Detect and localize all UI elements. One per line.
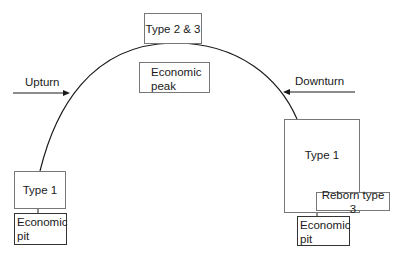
right-pit-line2: pit [300, 232, 349, 246]
reborn-type3-box: Reborn type 3 [316, 192, 390, 211]
left-economic-pit-box: Economic pit [14, 213, 67, 245]
upturn-label: Upturn [25, 76, 60, 88]
economic-peak-line2: peak [151, 79, 209, 93]
downturn-arrowhead [283, 89, 290, 95]
right-pit-line1: Economic [300, 218, 349, 232]
economic-peak-line1: Economic [151, 65, 209, 79]
downturn-label: Downturn [295, 75, 344, 87]
left-type1-label: Type 1 [23, 183, 58, 197]
upturn-arrowhead [63, 90, 70, 96]
left-type1-box: Type 1 [14, 171, 66, 209]
right-type1-label: Type 1 [305, 148, 340, 162]
peak-type-box: Type 2 & 3 [144, 13, 202, 44]
reborn-type3-label: Reborn type 3 [317, 188, 389, 216]
right-economic-pit-box: Economic pit [297, 216, 350, 246]
economic-peak-box: Economic peak [139, 62, 210, 93]
left-pit-line1: Economic [17, 215, 66, 229]
left-pit-line2: pit [17, 229, 66, 243]
peak-type-label: Type 2 & 3 [146, 22, 201, 36]
